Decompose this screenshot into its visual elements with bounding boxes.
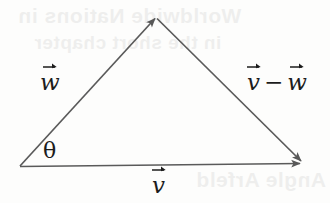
vector-accent-group-w: w	[40, 68, 60, 95]
label-vector-v-minus-w: v − w	[247, 68, 307, 95]
vector-accent-group-v-bottom: v	[152, 171, 165, 198]
vector-accent-group-w2: w	[287, 68, 307, 95]
vector-v-line	[20, 164, 300, 167]
label-w-glyph: w	[40, 69, 60, 95]
label-w2-glyph: w	[287, 69, 307, 95]
label-angle-theta: θ	[43, 138, 56, 163]
vector-accent-group-v: v	[247, 68, 260, 95]
vector-diagram-figure: Worldwide Nations in in the short chapte…	[0, 0, 330, 203]
minus-operator: −	[260, 69, 287, 95]
label-vector-w: w	[40, 68, 60, 95]
label-v-glyph: v	[247, 69, 260, 95]
label-vector-v: v	[152, 171, 165, 198]
label-v-bottom-glyph: v	[152, 172, 165, 198]
vector-triangle-svg	[0, 0, 330, 203]
